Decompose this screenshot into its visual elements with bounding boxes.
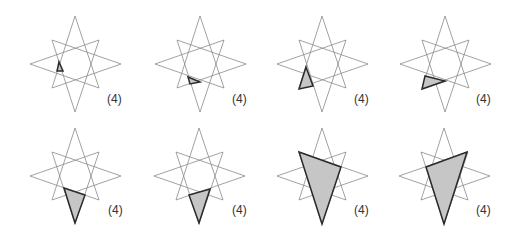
panel-8: (4) <box>399 128 491 224</box>
panel-6: (4) <box>154 128 247 224</box>
count-label: (4) <box>476 203 491 217</box>
count-label: (4) <box>354 92 369 106</box>
panel-5: (4) <box>30 128 123 224</box>
panel-7: (4) <box>277 128 369 224</box>
panel-grid: (4)(4)(4)(4)(4)(4)(4)(4) <box>30 16 491 224</box>
panel-3: (4) <box>277 16 369 112</box>
star-triangle-figure: (4)(4)(4)(4)(4)(4)(4)(4) <box>0 0 517 236</box>
highlighted-triangle <box>57 62 63 71</box>
panel-2: (4) <box>155 16 247 112</box>
highlighted-triangle <box>188 77 200 84</box>
count-label: (4) <box>232 92 247 106</box>
highlighted-triangle <box>422 76 445 89</box>
count-label: (4) <box>107 92 122 106</box>
count-label: (4) <box>108 203 123 217</box>
count-label: (4) <box>232 203 247 217</box>
panel-1: (4) <box>30 16 122 112</box>
panel-4: (4) <box>400 16 491 112</box>
highlighted-triangle <box>189 189 210 223</box>
highlighted-triangle <box>426 152 467 224</box>
count-label: (4) <box>476 92 491 106</box>
count-label: (4) <box>354 203 369 217</box>
highlighted-triangle <box>299 152 341 224</box>
highlighted-triangle <box>64 188 85 223</box>
